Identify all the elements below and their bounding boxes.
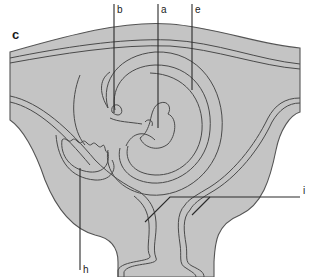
label-h: h [83,264,89,275]
embryo-diagram: c b a e h i [0,0,312,277]
label-e: e [195,4,201,15]
panel-letter: c [12,27,19,42]
label-a: a [161,4,167,15]
label-b: b [117,4,123,15]
label-i: i [303,185,305,196]
